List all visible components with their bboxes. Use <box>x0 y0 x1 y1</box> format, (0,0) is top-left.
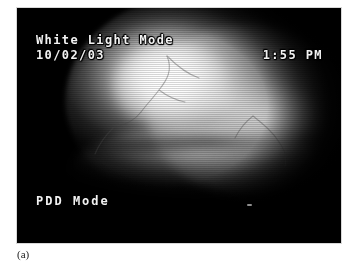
figure-container: White Light Mode 10/02/03 1:55 PM PDD Mo… <box>0 0 357 265</box>
osd-mode-label: White Light Mode <box>36 33 174 47</box>
osd-date: 10/02/03 <box>36 48 105 62</box>
endoscopic-video-frame: White Light Mode 10/02/03 1:55 PM PDD Mo… <box>17 8 341 243</box>
osd-pdd-mode-label: PDD Mode <box>36 194 110 208</box>
bright-speck <box>247 204 252 206</box>
osd-time: 1:55 PM <box>263 48 323 62</box>
figure-caption: (a) <box>17 248 29 260</box>
